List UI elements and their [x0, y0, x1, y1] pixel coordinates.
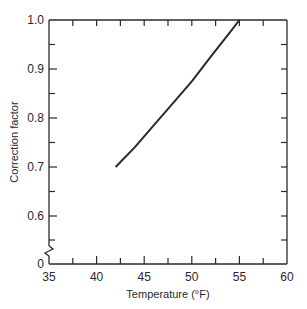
- x-tick-label-50: 50: [185, 270, 199, 284]
- y-axis-ticks-right: [281, 45, 287, 241]
- x-tick-labels: 35 40 45 50 55 60: [42, 270, 294, 284]
- x-tick-label-45: 45: [138, 270, 152, 284]
- x-axis-title: Temperature (°F): [126, 288, 209, 300]
- plot-frame: [49, 20, 287, 264]
- x-tick-label-40: 40: [90, 270, 104, 284]
- y-tick-label-0.6: 0.6: [27, 209, 44, 223]
- x-tick-label-55: 55: [233, 270, 247, 284]
- y-tick-label-0.9: 0.9: [27, 62, 44, 76]
- y-tick-label-0.8: 0.8: [27, 111, 44, 125]
- correction-factor-curve: [116, 20, 240, 167]
- y-axis-title: Correction factor: [8, 101, 20, 183]
- x-tick-label-35: 35: [42, 270, 56, 284]
- y-axis-ticks-left: [49, 45, 57, 241]
- y-tick-label-1.0: 1.0: [27, 13, 44, 27]
- x-tick-label-60: 60: [280, 270, 294, 284]
- y-tick-label-0.7: 0.7: [27, 160, 44, 174]
- y-tick-labels: 1.0 0.9 0.8 0.7 0.6 0: [27, 13, 44, 271]
- chart: 1.0 0.9 0.8 0.7 0.6 0 35 40 45 50 55 60 …: [0, 0, 307, 309]
- y-tick-label-0: 0: [37, 257, 44, 271]
- x-axis-ticks-bottom: [73, 256, 263, 264]
- axis-break-icon: [45, 246, 53, 256]
